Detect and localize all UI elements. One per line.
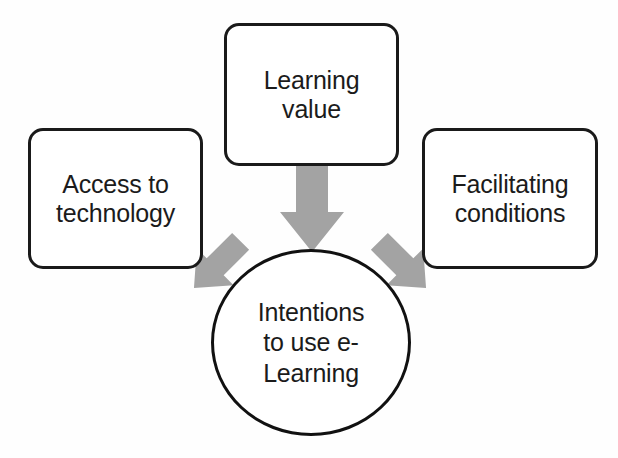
node-facilitating-conditions[interactable]: Facilitating conditions: [422, 128, 598, 269]
node-intentions-to-use-e-learning[interactable]: Intentions to use e- Learning: [211, 249, 411, 436]
node-intentions-to-use-e-learning-label: Intentions to use e- Learning: [258, 297, 364, 389]
node-facilitating-conditions-label: Facilitating conditions: [445, 170, 574, 227]
down-arrow-icon: [280, 160, 344, 252]
node-access-to-technology-label: Access to technology: [50, 170, 181, 227]
node-learning-value-label: Learning value: [258, 66, 366, 123]
arrow-learning-value-to-intentions: [280, 160, 344, 256]
node-access-to-technology[interactable]: Access to technology: [28, 128, 203, 269]
node-learning-value[interactable]: Learning value: [224, 23, 399, 166]
diagram-canvas: Access to technology Learning value Faci…: [0, 0, 618, 458]
